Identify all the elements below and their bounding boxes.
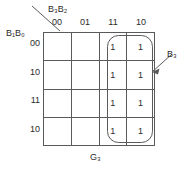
kmap-cell: 1 [100,90,128,118]
row-header-3: 10 [17,124,40,134]
kmap-cell: 1 [100,33,128,61]
figure-caption: G₃ [90,152,101,162]
kmap-cell [44,61,72,89]
kmap-cell: 1 [100,118,128,146]
kmap-cell: 1 [127,118,155,146]
kmap-cell: 1 [100,61,128,89]
column-header-2: 11 [99,17,127,27]
row-variables-label: B₁B₀ [6,28,25,38]
kmap-cell-grid: 1 1 1 1 1 1 1 1 [43,32,155,146]
kmap-cell [72,118,100,146]
kmap-cell [72,61,100,89]
kmap-cell: 1 [127,33,155,61]
kmap-cell [44,118,72,146]
column-variables-label: B₃B₂ [48,4,67,14]
row-header-1: 10 [17,67,40,77]
group-label-b3: B₃ [167,49,177,59]
kmap-cell [44,90,72,118]
column-header-1: 01 [71,17,99,27]
kmap-cell [72,90,100,118]
kmap-cell: 1 [127,90,155,118]
karnaugh-map-figure: B₃B₂ B₁B₀ 00 01 11 10 00 10 11 10 1 1 1 … [0,0,194,171]
kmap-cell [72,33,100,61]
kmap-cell [44,33,72,61]
row-header-2: 11 [17,95,40,105]
row-header-0: 00 [17,38,40,48]
column-header-3: 10 [127,17,155,27]
kmap-cell: 1 [127,61,155,89]
column-header-0: 00 [43,17,71,27]
